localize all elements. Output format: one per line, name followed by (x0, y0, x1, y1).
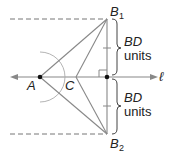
brace-upper (112, 19, 121, 75)
point-D (105, 75, 110, 80)
lower-brace-label-units: units (124, 104, 152, 119)
lower-brace-label-bd: BD (124, 90, 142, 105)
label-C: C (65, 78, 75, 93)
label-B2-subscript: 2 (119, 143, 124, 153)
label-B1: B (110, 4, 119, 19)
reflection-diagram: A C B 1 B 2 ℓ BD units BD units (0, 0, 173, 154)
label-line-l: ℓ (159, 69, 164, 84)
arrow-right-icon (150, 74, 158, 80)
label-A: A (26, 78, 36, 93)
upper-brace-label-bd: BD (124, 34, 142, 49)
segment-AB1 (40, 19, 107, 77)
brace-lower (112, 79, 121, 134)
arrow-left-icon (10, 74, 18, 80)
label-B2: B (110, 136, 119, 151)
upper-brace-label-units: units (124, 48, 152, 63)
point-A (38, 75, 43, 80)
label-B1-subscript: 1 (119, 11, 124, 21)
segment-CB2 (76, 77, 107, 134)
segment-CB1 (76, 19, 107, 77)
